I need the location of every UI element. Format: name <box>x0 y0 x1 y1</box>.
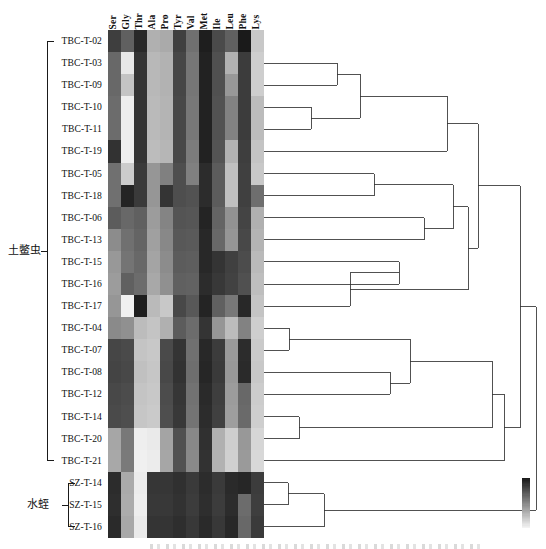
heatmap-cell <box>186 251 200 274</box>
heatmap-cell <box>199 140 213 163</box>
heatmap-cell <box>199 339 213 362</box>
heatmap-cell <box>225 450 239 473</box>
heatmap-cell <box>160 52 174 75</box>
heatmap-cell <box>186 140 200 163</box>
heatmap-cell <box>147 251 161 274</box>
heatmap-cell <box>212 361 226 384</box>
heatmap-cell <box>212 405 226 428</box>
heatmap-cell <box>212 52 226 75</box>
heatmap-cell <box>134 96 148 119</box>
heatmap-cell <box>238 339 252 362</box>
row-label-sz-t-16: SZ-T-16 <box>0 522 102 532</box>
group-bracket-stub-shuizhi <box>62 505 68 506</box>
heatmap-cell <box>212 494 226 517</box>
heatmap-cell <box>238 405 252 428</box>
heatmap-cell <box>147 52 161 75</box>
heatmap-cell <box>121 383 135 406</box>
row-label-tbc-t-20: TBC-T-20 <box>0 434 102 444</box>
heatmap-cell <box>121 339 135 362</box>
heatmap-cell <box>108 163 122 186</box>
heatmap-cell <box>160 251 174 274</box>
heatmap-cell <box>147 185 161 208</box>
heatmap-cell <box>199 494 213 517</box>
heatmap-cell <box>186 74 200 97</box>
heatmap-cell <box>251 74 264 97</box>
column-header-pro: Pro <box>161 14 171 29</box>
heatmap-cell <box>186 494 200 517</box>
heatmap-cell <box>173 251 187 274</box>
heatmap-cell <box>134 118 148 141</box>
heatmap-cell <box>199 317 213 340</box>
page-edge-artifact <box>150 544 480 549</box>
heatmap-cell <box>108 52 122 75</box>
heatmap-cell <box>212 516 226 538</box>
heatmap-cell <box>147 229 161 252</box>
heatmap-cell <box>108 229 122 252</box>
heatmap-cell <box>173 52 187 75</box>
heatmap-cell <box>108 472 122 495</box>
heatmap-cell <box>173 229 187 252</box>
heatmap-cell <box>238 494 252 517</box>
heatmap-cell <box>160 163 174 186</box>
heatmap-cell <box>160 273 174 296</box>
heatmap-cell <box>238 229 252 252</box>
heatmap-cell <box>147 450 161 473</box>
heatmap-cell <box>238 472 252 495</box>
heatmap-cell <box>160 30 174 53</box>
heatmap-cell <box>199 207 213 230</box>
row-label-tbc-t-19: TBC-T-19 <box>0 146 102 156</box>
row-label-tbc-t-03: TBC-T-03 <box>0 58 102 68</box>
heatmap-cell <box>212 428 226 451</box>
heatmap-cell <box>134 273 148 296</box>
heatmap-cell <box>199 30 213 53</box>
group-bracket-tubiechong <box>47 41 48 461</box>
heatmap-cell <box>251 317 264 340</box>
heatmap-cell <box>121 140 135 163</box>
heatmap-cell <box>108 295 122 318</box>
group-bracket-shuizhi <box>68 483 69 527</box>
heatmap-cell <box>134 163 148 186</box>
heatmap-cell <box>160 96 174 119</box>
heatmap-cell <box>251 472 264 495</box>
heatmap-cell <box>186 30 200 53</box>
heatmap-cell <box>238 428 252 451</box>
heatmap-cell <box>238 118 252 141</box>
heatmap-cell <box>225 118 239 141</box>
heatmap-cell <box>121 516 135 538</box>
colorbar-segment <box>522 527 530 528</box>
heatmap-cell <box>147 273 161 296</box>
heatmap-cell <box>108 516 122 538</box>
heatmap-cell <box>238 295 252 318</box>
heatmap-cell <box>238 450 252 473</box>
heatmap-cell <box>199 450 213 473</box>
heatmap-cell <box>225 405 239 428</box>
row-label-tbc-t-16: TBC-T-16 <box>0 279 102 289</box>
heatmap-cell <box>147 140 161 163</box>
heatmap-cell <box>160 405 174 428</box>
heatmap-cell <box>173 516 187 538</box>
heatmap-cell <box>238 273 252 296</box>
heatmap-cell <box>134 295 148 318</box>
heatmap-cell <box>199 96 213 119</box>
heatmap-cell <box>121 317 135 340</box>
heatmap-cell <box>134 428 148 451</box>
heatmap-cell <box>212 295 226 318</box>
heatmap-cell <box>199 229 213 252</box>
column-header-tyr: Tyr <box>174 14 184 29</box>
heatmap-cell <box>121 273 135 296</box>
heatmap-cell <box>121 405 135 428</box>
heatmap-cell <box>108 383 122 406</box>
heatmap-cell <box>212 96 226 119</box>
heatmap-cell <box>134 74 148 97</box>
heatmap-cell <box>212 450 226 473</box>
heatmap-cell <box>199 251 213 274</box>
heatmap-cell <box>225 229 239 252</box>
heatmap-cell <box>173 118 187 141</box>
heatmap-cell <box>186 163 200 186</box>
heatmap-cell <box>238 361 252 384</box>
heatmap-cell <box>251 118 264 141</box>
heatmap-cell <box>147 118 161 141</box>
heatmap-cell <box>121 52 135 75</box>
row-label-tbc-t-09: TBC-T-09 <box>0 80 102 90</box>
heatmap-cell <box>186 516 200 538</box>
